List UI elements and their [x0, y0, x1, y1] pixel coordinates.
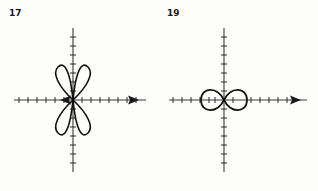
worksheet-page: 17 — [0, 0, 318, 191]
polar-plot-rose — [0, 0, 159, 191]
axes-group — [169, 28, 307, 172]
figure-19: 19 — [159, 0, 318, 191]
figure-17: 17 — [0, 0, 159, 191]
axes-group — [14, 28, 146, 172]
polar-plot-lemniscate — [159, 0, 318, 191]
